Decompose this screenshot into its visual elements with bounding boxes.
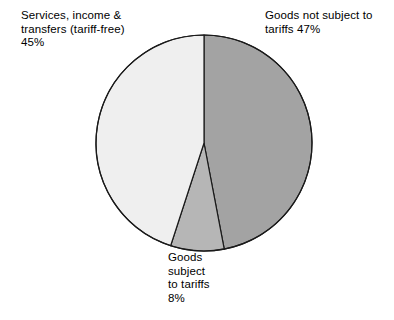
- pie-chart-figure: Goods not subject to tariffs 47% Goods s…: [0, 0, 394, 320]
- pie-label-services-income-transfers: Services, income & transfers (tariff-fre…: [21, 9, 171, 50]
- pie-label-goods-subject-to-tariffs: Goods subject to tariffs 8%: [168, 251, 263, 305]
- pie-slice-goods-not-subject-to-tariffs[interactable]: [204, 35, 312, 249]
- pie-slice-group: [96, 35, 312, 251]
- pie-label-goods-not-subject-to-tariffs: Goods not subject to tariffs 47%: [265, 9, 390, 36]
